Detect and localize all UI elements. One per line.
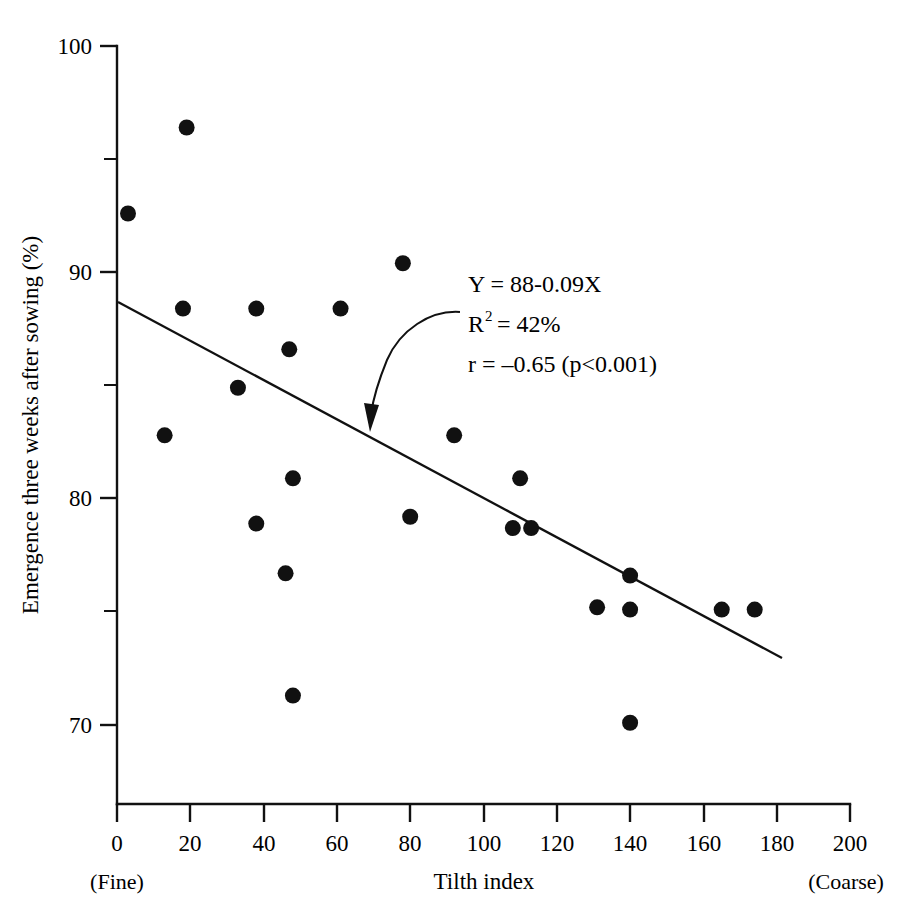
data-point [175,301,191,317]
x-axis-fine-note: (Fine) [90,869,144,894]
y-axis-title: Emergence three weeks after sowing (%) [18,236,43,614]
annotation-r-squared-exponent: 2 [485,308,493,324]
x-tick-label-20: 20 [179,831,202,856]
annotation-r-squared-value: = 42% [497,311,561,337]
data-point [285,688,301,704]
plot-svg: 100 90 80 70 0 20 40 60 80 100 120 140 1… [0,0,897,908]
x-tick-label-120: 120 [540,831,575,856]
x-tick-label-200: 200 [833,831,868,856]
annotation-correlation: r = –0.65 (p<0.001) [468,351,657,377]
data-point [714,602,730,618]
data-point [402,509,418,525]
y-tick-label-70: 70 [69,713,92,738]
x-tick-label-40: 40 [253,831,276,856]
data-point [281,341,297,357]
x-axis-coarse-note: (Coarse) [808,869,884,894]
data-point [512,470,528,486]
data-point [248,516,264,532]
data-point [157,427,173,443]
data-point [395,255,411,271]
data-point [622,602,638,618]
data-point [523,520,539,536]
regression-line [118,302,782,658]
scatter-plot-figure: 100 90 80 70 0 20 40 60 80 100 120 140 1… [0,0,897,908]
x-tick-label-160: 160 [687,831,722,856]
annotation-r-squared: R 2 = 42% [468,308,561,337]
data-point [120,205,136,221]
annotation-arrow-head [364,403,379,432]
data-point [589,599,605,615]
x-axis-title: Tilth index [434,869,535,894]
data-point [230,380,246,396]
data-points-layer [120,119,763,730]
data-point [179,119,195,135]
data-point [278,565,294,581]
data-point [333,301,349,317]
x-tick-label-180: 180 [760,831,795,856]
y-axis-minor-ticks [104,159,117,611]
data-point [446,427,462,443]
y-tick-label-80: 80 [69,486,92,511]
x-tick-label-60: 60 [326,831,349,856]
x-tick-label-100: 100 [467,831,502,856]
data-point [622,715,638,731]
y-tick-label-90: 90 [69,260,92,285]
x-tick-label-140: 140 [613,831,648,856]
annotation-equation: Y = 88-0.09X [468,271,601,297]
data-point [622,568,638,584]
x-tick-label-80: 80 [399,831,422,856]
x-tick-label-0: 0 [111,831,123,856]
annotation-r-squared-base: R [468,311,484,337]
x-axis-ticks [117,804,850,822]
data-point [747,602,763,618]
data-point [248,301,264,317]
data-point [505,520,521,536]
data-point [285,470,301,486]
annotation-arrow-curve [371,312,460,414]
y-tick-label-100: 100 [58,34,93,59]
